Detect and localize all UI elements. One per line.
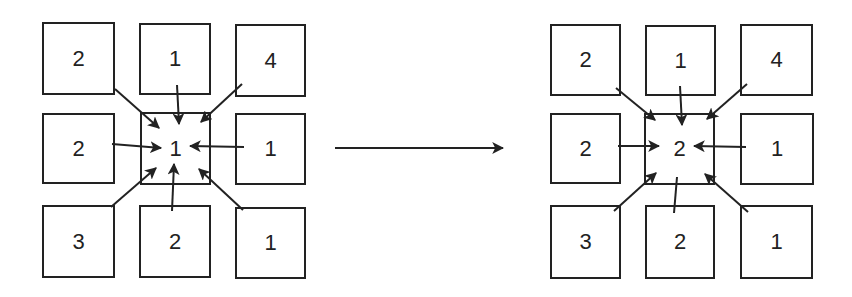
after-cell-bottom-left: 3 <box>550 205 621 279</box>
cell-value: 1 <box>770 231 782 253</box>
cell-value: 3 <box>72 231 84 253</box>
cell-value: 2 <box>674 231 686 253</box>
after-cell-middle-left: 2 <box>550 113 621 184</box>
before-cell-bottom-left: 3 <box>42 205 115 278</box>
after-cell-center: 2 <box>644 113 715 185</box>
after-cell-bottom-center: 2 <box>645 205 715 279</box>
after-cell-top-right: 4 <box>740 24 813 96</box>
after-cell-top-center: 1 <box>645 25 716 96</box>
center-value: 1 <box>169 138 181 160</box>
cell-value: 2 <box>72 138 84 160</box>
after-cell-top-left: 2 <box>550 24 621 96</box>
diagram-canvas: 2 1 4 2 1 1 3 2 1 2 1 <box>0 0 852 297</box>
center-value: 2 <box>673 138 685 160</box>
before-cell-bottom-right: 1 <box>235 207 306 279</box>
cell-value: 3 <box>579 231 591 253</box>
before-cell-middle-right: 1 <box>235 113 306 185</box>
cell-value: 2 <box>579 49 591 71</box>
cell-value: 2 <box>579 138 591 160</box>
cell-value: 1 <box>771 138 783 160</box>
before-cell-bottom-center: 2 <box>139 205 211 278</box>
before-cell-top-center: 1 <box>139 23 211 95</box>
cell-value: 2 <box>72 48 84 70</box>
after-cell-bottom-right: 1 <box>740 205 813 279</box>
cell-value: 1 <box>264 232 276 254</box>
before-cell-center: 1 <box>140 112 211 185</box>
before-cell-top-left: 2 <box>42 22 115 95</box>
after-cell-middle-right: 1 <box>740 113 814 185</box>
arrows-layer <box>0 0 852 297</box>
cell-value: 4 <box>770 49 782 71</box>
cell-value: 1 <box>169 48 181 70</box>
cell-value: 4 <box>264 50 276 72</box>
before-cell-top-right: 4 <box>235 24 306 97</box>
cell-value: 2 <box>169 231 181 253</box>
before-cell-middle-left: 2 <box>42 113 115 184</box>
cell-value: 1 <box>264 138 276 160</box>
cell-value: 1 <box>674 50 686 72</box>
